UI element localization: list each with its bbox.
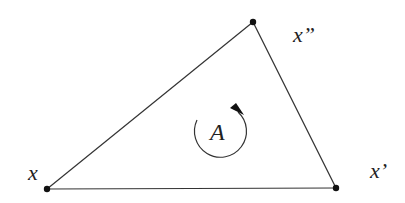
vertex-x2-point	[250, 19, 256, 25]
edge-x-x1	[47, 188, 336, 189]
triangle-diagram: x x’ x” A	[0, 0, 405, 203]
vertex-x1-label: x’	[369, 158, 387, 183]
vertex-x-point	[44, 186, 50, 192]
vertex-x-label: x	[27, 160, 38, 185]
area-label: A	[208, 119, 225, 145]
triangle-edges	[47, 22, 336, 189]
vertex-x2-label: x”	[292, 22, 315, 47]
vertex-x1-point	[333, 185, 339, 191]
edge-x2-x	[47, 22, 253, 189]
